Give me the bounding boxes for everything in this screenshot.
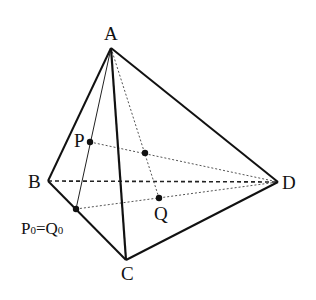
label-c: C [121,263,134,284]
label-p: P [74,130,85,151]
label-q0-sub: 0 [58,224,64,236]
segment-a-q-dotted [111,48,159,198]
point-p0 [73,206,79,212]
label-b: B [28,171,41,192]
edge-ad [111,48,278,182]
edge-ac [111,48,126,260]
edge-ab [48,48,111,181]
edge-bc [48,181,126,260]
point-p [87,139,93,145]
label-q: Q [154,203,168,224]
edge-cd [126,182,278,260]
label-a: A [104,23,118,44]
segment-a-p0 [76,48,111,209]
segment-p0-d-dotted [76,182,278,209]
point-m [142,150,148,156]
tetrahedron-diagram: A B C D P Q P0=Q0 [0,0,316,300]
label-eq: = [36,219,46,238]
label-p0-eq-q0: P0=Q0 [21,219,64,238]
label-q0-main: Q [46,219,58,238]
label-d: D [282,172,296,193]
label-p0-main: P [21,219,30,238]
point-q [156,195,162,201]
